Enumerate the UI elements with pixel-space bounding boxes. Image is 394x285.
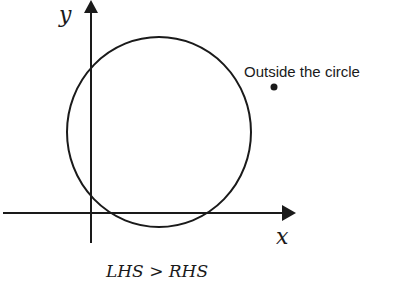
circle-diagram: y x Outside the circle LHS > RHS [0, 0, 394, 285]
outside-point [271, 84, 278, 91]
caption: LHS > RHS [105, 261, 208, 281]
x-axis-arrow-icon [282, 205, 296, 221]
y-axis-label: y [58, 2, 72, 27]
circle [67, 37, 251, 227]
point-label: Outside the circle [244, 63, 360, 80]
x-axis-label: x [276, 224, 289, 249]
y-axis-arrow-icon [84, 0, 98, 13]
